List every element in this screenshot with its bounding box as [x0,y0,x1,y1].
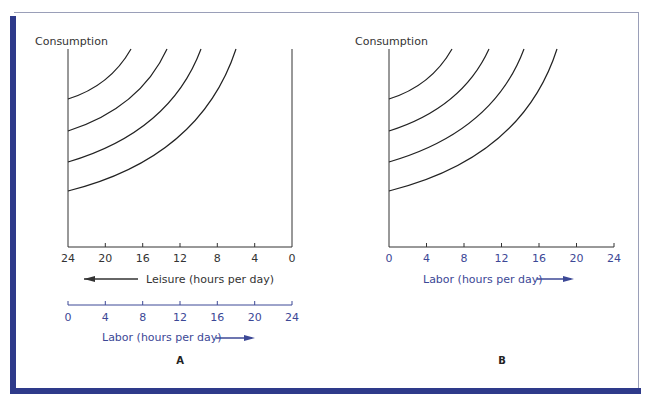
svg-text:4: 4 [251,252,258,265]
svg-text:8: 8 [214,252,221,265]
svg-text:12: 12 [495,252,509,265]
panel-b-labor-ticks [427,243,615,247]
svg-text:20: 20 [248,311,262,324]
svg-text:12: 12 [173,311,187,324]
svg-text:8: 8 [461,252,468,265]
svg-text:16: 16 [210,311,224,324]
svg-text:12: 12 [173,252,187,265]
svg-text:0: 0 [65,311,72,324]
panel-a-y-label: Consumption [35,35,108,48]
svg-text:0: 0 [386,252,393,265]
panel-b-indifference-curves [389,49,557,191]
panel-a-indifference-curves [68,49,236,191]
panel-a-labor-label: Labor (hours per day) [102,331,222,344]
svg-text:0: 0 [289,252,296,265]
panel-a-labor-ticks [68,301,292,305]
svg-text:16: 16 [532,252,546,265]
left-arrow-icon [84,276,138,282]
panel-a-caption: A [176,355,184,366]
panel-a: Consumption 24 20 16 12 8 4 0 Leisure (h… [35,35,299,366]
svg-text:4: 4 [102,311,109,324]
svg-text:4: 4 [423,252,430,265]
panel-a-leisure-label: Leisure (hours per day) [146,273,274,286]
panel-b-y-label: Consumption [355,35,428,48]
panel-a-leisure-tick-labels: 24 20 16 12 8 4 0 [61,252,296,265]
svg-text:16: 16 [136,252,150,265]
panel-a-leisure-ticks [105,243,254,247]
svg-text:24: 24 [607,252,621,265]
svg-text:20: 20 [98,252,112,265]
svg-text:20: 20 [570,252,584,265]
panel-b-labor-tick-labels: 0 4 8 12 16 20 24 [386,252,622,265]
right-arrow-icon [216,335,255,341]
panel-a-labor-tick-labels: 0 4 8 12 16 20 24 [65,311,300,324]
svg-text:24: 24 [285,311,299,324]
panel-b-caption: B [498,355,506,366]
panel-b-labor-label: Labor (hours per day) [423,273,543,286]
svg-text:8: 8 [139,311,146,324]
panel-b: Consumption 0 4 8 12 16 20 24 Labor (hou… [355,35,621,366]
svg-text:24: 24 [61,252,75,265]
